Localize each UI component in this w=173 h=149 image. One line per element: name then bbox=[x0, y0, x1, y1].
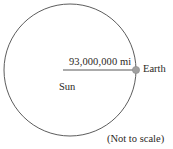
sun-earth-distance-diagram: 93,000,000 mi Earth Sun (Not to scale) bbox=[0, 0, 173, 149]
diagram-canvas bbox=[0, 0, 173, 149]
sun-label: Sun bbox=[59, 82, 75, 93]
distance-label: 93,000,000 mi bbox=[69, 57, 131, 68]
earth-dot-icon bbox=[132, 66, 139, 73]
earth-label: Earth bbox=[143, 64, 166, 75]
not-to-scale-note: (Not to scale) bbox=[107, 134, 164, 145]
